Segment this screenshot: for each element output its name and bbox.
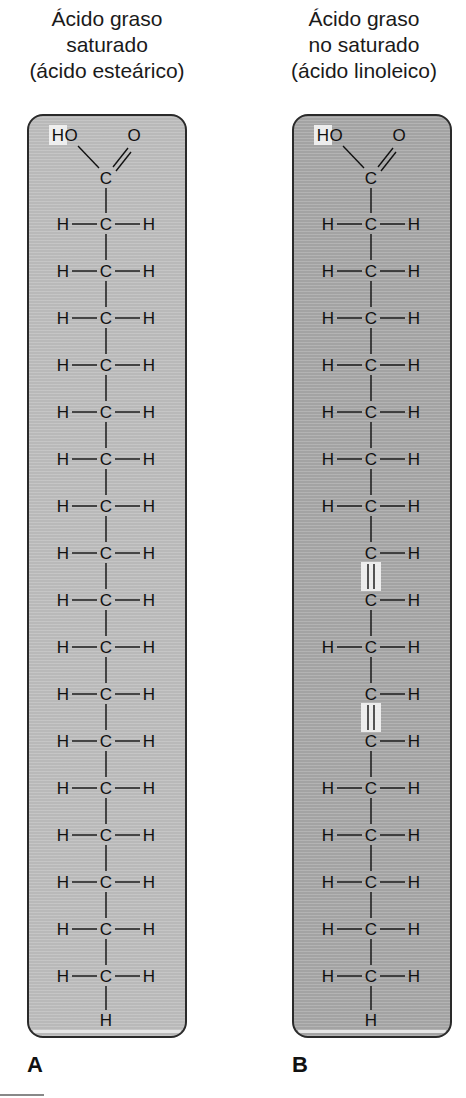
bond-line [343,146,364,168]
hydrogen-atom: H [143,873,155,892]
hydrogen-atom: H [408,309,420,328]
hydrogen-atom: H [143,826,155,845]
molecule-B: HOOCCHHCHHCHHCHHCHHCHHCHHCHCHCHHCHCHCHHC… [314,125,420,1030]
carbon-atom: C [365,215,377,234]
hydrogen-atom: H [322,826,334,845]
carboxyl-c-atom: C [365,169,377,188]
carbon-atom: C [100,591,112,610]
hydrogen-atom: H [57,826,69,845]
carbon-atom: C [100,356,112,375]
carbon-atom: C [365,591,377,610]
hydrogen-atom: H [408,685,420,704]
carbon-atom: C [100,215,112,234]
hydrogen-atom: H [143,497,155,516]
molecule-A: HOOCCHHCHHCHHCHHCHHCHHCHHCHHCHHCHHCHHCHH… [49,125,155,1030]
hydrogen-atom: H [408,779,420,798]
hydrogen-atom: H [57,356,69,375]
hydrogen-atom: H [143,356,155,375]
hydrogen-atom: H [143,215,155,234]
hydrogen-atom: H [57,685,69,704]
hydrogen-atom: H [143,920,155,939]
double-bond-highlight [361,562,381,591]
hydrogen-atom: H [57,732,69,751]
hydrogen-atom: H [143,732,155,751]
hydrogen-atom: H [57,215,69,234]
hydroxyl-h-atom: H [52,126,64,145]
terminal-h-atom: H [100,1011,112,1030]
hydrogen-atom: H [408,732,420,751]
carbon-atom: C [100,779,112,798]
carbon-atom: C [100,873,112,892]
bond-line [113,148,128,167]
hydrogen-atom: H [143,309,155,328]
hydrogen-atom: H [408,497,420,516]
hydrogen-atom: H [408,403,420,422]
hydrogen-atom: H [322,356,334,375]
hydrogen-atom: H [322,779,334,798]
hydrogen-atom: H [408,638,420,657]
carbon-atom: C [100,638,112,657]
hydrogen-atom: H [143,262,155,281]
hydrogen-atom: H [408,450,420,469]
hydrogen-atom: H [57,967,69,986]
hydrogen-atom: H [143,544,155,563]
carbon-atom: C [365,732,377,751]
hydrogen-atom: H [322,497,334,516]
hydrogen-atom: H [57,591,69,610]
hydrogen-atom: H [57,544,69,563]
terminal-h-atom: H [365,1011,377,1030]
hydrogen-atom: H [57,497,69,516]
hydrogen-atom: H [322,873,334,892]
bond-line [381,152,396,171]
carbon-atom: C [365,920,377,939]
hydroxyl-o-atom: O [64,126,77,145]
hydrogen-atom: H [408,967,420,986]
carbonyl-o-atom: O [127,126,140,145]
hydrogen-atom: H [57,309,69,328]
carbon-atom: C [365,967,377,986]
hydrogen-atom: H [143,967,155,986]
hydrogen-atom: H [57,779,69,798]
hydrogen-atom: H [57,920,69,939]
hydrogen-atom: H [57,262,69,281]
bond-line [378,148,393,167]
carbon-atom: C [100,920,112,939]
carbon-atom: C [100,967,112,986]
panel-label-a: A [27,1052,43,1078]
hydrogen-atom: H [57,873,69,892]
carbon-atom: C [365,309,377,328]
hydrogen-atom: H [408,356,420,375]
carbon-atom: C [365,403,377,422]
carbon-atom: C [365,685,377,704]
carbon-atom: C [365,544,377,563]
carbon-atom: C [100,544,112,563]
hydrogen-atom: H [322,309,334,328]
carbon-atom: C [100,403,112,422]
hydrogen-atom: H [408,591,420,610]
hydrogen-atom: H [408,262,420,281]
hydrogen-atom: H [57,403,69,422]
carbon-atom: C [365,638,377,657]
carbonyl-o-atom: O [392,126,405,145]
hydrogen-atom: H [322,638,334,657]
carbon-atom: C [365,826,377,845]
carboxyl-c-atom: C [100,169,112,188]
hydrogen-atom: H [57,450,69,469]
hydrogen-atom: H [143,779,155,798]
hydrogen-atom: H [57,638,69,657]
divider-line [0,1094,44,1096]
carbon-atom: C [365,356,377,375]
hydrogen-atom: H [408,873,420,892]
double-bond-highlight [361,703,381,732]
carbon-atom: C [100,450,112,469]
hydrogen-atom: H [408,920,420,939]
carbon-atom: C [365,779,377,798]
hydrogen-atom: H [143,591,155,610]
carbon-atom: C [100,262,112,281]
hydrogen-atom: H [143,450,155,469]
carbon-atom: C [365,497,377,516]
carbon-atom: C [100,309,112,328]
hydrogen-atom: H [408,544,420,563]
hydroxyl-h-atom: H [317,126,329,145]
hydrogen-atom: H [143,403,155,422]
